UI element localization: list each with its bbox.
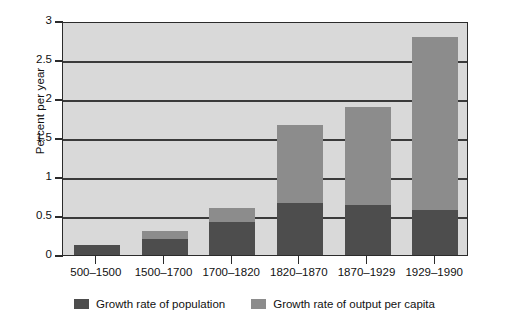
chart-figure: Percent per year 00.511.522.53 500–15001… <box>0 0 509 324</box>
y-axis-tick-label: 0 <box>16 249 52 261</box>
bar-segment-population <box>209 222 255 255</box>
bar-stack <box>345 107 391 255</box>
x-axis-tick <box>434 256 435 264</box>
x-axis-tick <box>366 256 367 264</box>
gridline <box>63 178 467 179</box>
x-axis-tick <box>231 256 232 264</box>
bar-segment-population <box>412 210 458 255</box>
x-axis-tick <box>298 256 299 264</box>
y-axis-tick-label: 3 <box>16 15 52 27</box>
y-axis-tick-label: 2.5 <box>16 54 52 66</box>
y-axis-tick-label: 1.5 <box>16 132 52 144</box>
legend-label: Growth rate of output per capita <box>273 298 435 310</box>
x-axis-tick <box>95 256 96 264</box>
y-axis-tick-label: 2 <box>16 93 52 105</box>
y-axis-tick-label: 0.5 <box>16 210 52 222</box>
plot-area <box>62 22 468 256</box>
legend-item: Growth rate of output per capita <box>251 298 435 310</box>
bar-segment-output-per-capita <box>209 208 255 222</box>
bar-segment-population <box>277 203 323 255</box>
legend-swatch-icon <box>74 299 89 309</box>
bar-segment-population <box>345 205 391 255</box>
y-axis-tick-label: 1 <box>16 171 52 183</box>
bar-stack <box>142 231 188 255</box>
bar-stack <box>277 125 323 255</box>
bar-segment-population <box>74 245 120 255</box>
chart-legend: Growth rate of populationGrowth rate of … <box>0 298 509 310</box>
x-axis-tick <box>163 256 164 264</box>
legend-swatch-icon <box>251 299 266 309</box>
legend-label: Growth rate of population <box>96 298 225 310</box>
bar-segment-output-per-capita <box>142 231 188 240</box>
gridline <box>63 217 467 218</box>
bar-segment-output-per-capita <box>412 37 458 210</box>
bar-segment-population <box>142 239 188 255</box>
x-axis-tick-label: 1929–1990 <box>389 266 479 278</box>
gridline <box>63 100 467 101</box>
bar-stack <box>74 245 120 255</box>
bar-segment-output-per-capita <box>345 107 391 205</box>
bar-stack <box>412 37 458 255</box>
gridline <box>63 139 467 140</box>
bar-stack <box>209 208 255 255</box>
bar-segment-output-per-capita <box>277 125 323 203</box>
gridline <box>63 61 467 62</box>
legend-item: Growth rate of population <box>74 298 225 310</box>
